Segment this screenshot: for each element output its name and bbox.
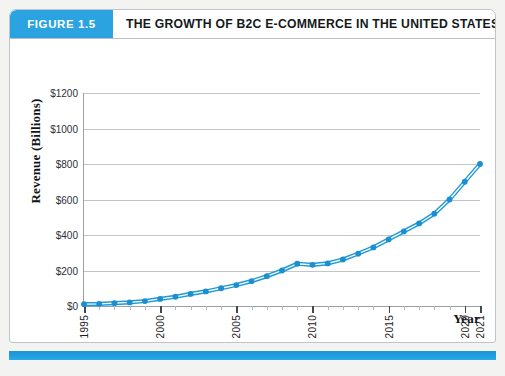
y-axis-tick-label: $1000 — [50, 123, 78, 134]
x-axis-minor-tick — [450, 306, 451, 310]
x-axis-major-tick — [312, 306, 314, 313]
x-axis-minor-tick — [343, 306, 344, 310]
data-point-marker — [310, 262, 316, 268]
x-axis-major-tick — [160, 306, 162, 313]
x-axis-title: Year — [453, 311, 480, 327]
data-point-marker — [447, 197, 453, 203]
data-point-marker — [370, 245, 376, 251]
data-point-marker — [172, 294, 178, 300]
x-axis-tick-label: 1995 — [79, 315, 90, 338]
x-axis-minor-tick — [252, 306, 253, 310]
x-axis-minor-tick — [419, 306, 420, 310]
x-axis-minor-tick — [434, 306, 435, 310]
x-axis-minor-tick — [297, 306, 298, 310]
data-point-marker — [157, 296, 163, 302]
data-point-marker — [249, 278, 255, 284]
data-point-marker — [96, 301, 102, 307]
x-axis-minor-tick — [130, 306, 131, 310]
figure-footer-bar — [9, 351, 496, 360]
data-point-marker — [340, 257, 346, 263]
data-point-marker — [416, 221, 422, 227]
figure-number-badge: FIGURE 1.5 — [10, 10, 113, 38]
x-axis-minor-tick — [373, 306, 374, 310]
x-axis-minor-tick — [358, 306, 359, 310]
x-axis-minor-tick — [145, 306, 146, 310]
figure-title: THE GROWTH OF B2C E-COMMERCE IN THE UNIT… — [126, 10, 489, 38]
data-point-marker — [188, 291, 194, 297]
data-point-marker — [401, 229, 407, 235]
data-point-marker — [325, 261, 331, 267]
x-axis-minor-tick — [191, 306, 192, 310]
y-axis-tick-label: $200 — [56, 265, 78, 276]
x-axis-minor-tick — [221, 306, 222, 310]
data-point-marker — [477, 161, 483, 167]
y-axis-tick-label: $600 — [56, 194, 78, 205]
x-axis-tick-label: 2000 — [155, 315, 166, 338]
data-point-marker — [294, 261, 300, 267]
data-point-marker — [264, 273, 270, 279]
x-axis-tick-label: 2015 — [384, 315, 395, 338]
data-series-line — [84, 93, 480, 306]
plot-area: $0$200$400$600$800$1000$1200 19952000200… — [83, 93, 480, 307]
chart-body: Revenue (Billions) $0$200$400$600$800$10… — [10, 39, 495, 329]
data-point-marker — [355, 251, 361, 257]
data-point-marker — [81, 301, 87, 307]
x-axis-minor-tick — [114, 306, 115, 310]
data-point-marker — [279, 268, 285, 274]
data-point-marker — [431, 211, 437, 217]
y-axis-tick-label: $400 — [56, 230, 78, 241]
x-axis-minor-tick — [282, 306, 283, 310]
x-axis-major-tick — [480, 306, 482, 313]
data-point-marker — [127, 300, 133, 306]
x-axis-minor-tick — [206, 306, 207, 310]
figure-header: FIGURE 1.5 THE GROWTH OF B2C E-COMMERCE … — [10, 10, 495, 39]
x-axis-minor-tick — [175, 306, 176, 310]
y-axis-tick-label: $800 — [56, 159, 78, 170]
data-point-marker — [462, 179, 468, 185]
x-axis-minor-tick — [267, 306, 268, 310]
x-axis-minor-tick — [404, 306, 405, 310]
x-axis-tick-label: 2005 — [231, 315, 242, 338]
x-axis-tick-label: 2010 — [307, 315, 318, 338]
y-axis-tick-label: $0 — [67, 301, 78, 312]
data-point-marker — [203, 289, 209, 295]
x-axis-major-tick — [236, 306, 238, 313]
data-point-marker — [386, 237, 392, 243]
x-axis-major-tick — [389, 306, 391, 313]
data-point-marker — [233, 282, 239, 288]
x-axis-minor-tick — [328, 306, 329, 310]
y-axis-title: Revenue (Billions) — [28, 51, 44, 251]
data-point-marker — [218, 285, 224, 291]
data-point-marker — [112, 300, 118, 306]
figure-card: FIGURE 1.5 THE GROWTH OF B2C E-COMMERCE … — [9, 9, 496, 343]
y-axis-tick-label: $1200 — [50, 88, 78, 99]
data-point-marker — [142, 298, 148, 304]
